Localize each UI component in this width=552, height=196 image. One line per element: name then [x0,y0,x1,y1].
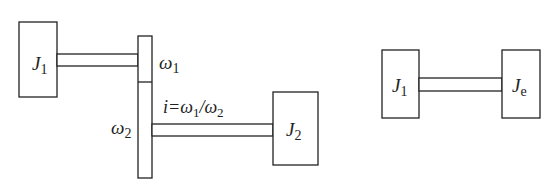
right-diagram: J1 Je [382,50,540,118]
gear-plate [138,36,152,178]
label-omega-1: ω1 [159,52,179,76]
equivalent-shaft [419,78,502,91]
shaft-1 [57,54,138,66]
left-diagram: J1 ω1 ω2 i=ω1/ω2 J2 [19,22,318,178]
label-omega-2: ω2 [111,117,131,141]
shaft-2 [152,124,273,136]
gear-train-diagram: J1 ω1 ω2 i=ω1/ω2 J2 J1 Je [0,0,552,196]
label-gear-ratio: i=ω1/ω2 [163,97,224,120]
